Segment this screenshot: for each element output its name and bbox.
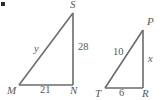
side-length-MS: y <box>34 44 39 55</box>
side-length-TP: 10 <box>113 47 124 58</box>
side-length-MN: 21 <box>40 85 51 96</box>
vertex-label-R: R <box>142 88 149 99</box>
side-length-NS: 28 <box>78 42 89 53</box>
vertex-label-M: M <box>7 85 16 96</box>
vertex-label-T: T <box>95 88 101 99</box>
geometry-figure: M N S 21 28 y T R P 6 x 10 <box>0 0 167 100</box>
side-length-RP: x <box>148 54 153 65</box>
side-TP-line <box>105 30 143 88</box>
vertex-label-S: S <box>70 0 76 10</box>
vertex-label-P: P <box>147 16 154 27</box>
triangle-MNS-shape <box>19 13 73 85</box>
vertex-label-N: N <box>70 85 77 96</box>
triangle-TRP-shape <box>105 30 143 88</box>
side-length-TR: 6 <box>119 88 124 99</box>
side-MS-line <box>19 13 73 85</box>
